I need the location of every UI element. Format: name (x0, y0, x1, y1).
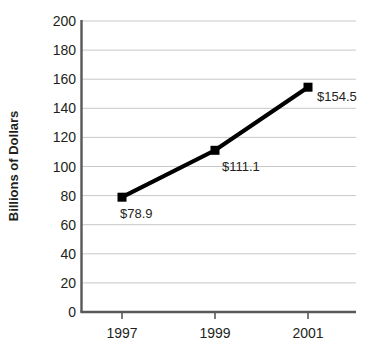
line-chart: 200 180 160 140 120 100 80 60 40 20 0 19… (0, 0, 372, 354)
data-point-label: $111.1 (222, 159, 260, 174)
y-tick-label: 60 (60, 217, 76, 233)
y-tick-label: 0 (68, 304, 76, 320)
y-tick-label: 100 (53, 159, 77, 175)
y-axis-title: Billions of Dollars (6, 111, 21, 222)
x-tick-label: 1999 (199, 325, 230, 341)
data-point-label: $154.5 (317, 89, 357, 104)
y-tick-label: 40 (60, 246, 76, 262)
y-tick-label: 160 (53, 71, 77, 87)
data-point-label: $78.9 (120, 206, 153, 221)
y-axis-tick-labels: 200 180 160 140 120 100 80 60 40 20 0 (53, 13, 77, 320)
y-tick-label: 20 (60, 275, 76, 291)
x-tick-label: 1997 (106, 325, 137, 341)
data-point-marker (211, 146, 220, 155)
data-series-line (122, 87, 308, 197)
y-tick-label: 80 (60, 188, 76, 204)
data-point-marker (118, 193, 127, 202)
x-axis-tick-labels: 1997 1999 2001 (106, 325, 323, 341)
y-tick-label: 120 (53, 129, 77, 145)
y-tick-label: 200 (53, 13, 77, 29)
y-tick-label: 180 (53, 42, 77, 58)
x-tick-label: 2001 (292, 325, 323, 341)
chart-canvas: 200 180 160 140 120 100 80 60 40 20 0 19… (0, 0, 372, 354)
y-tick-label: 140 (53, 100, 77, 116)
data-point-marker (304, 83, 313, 92)
